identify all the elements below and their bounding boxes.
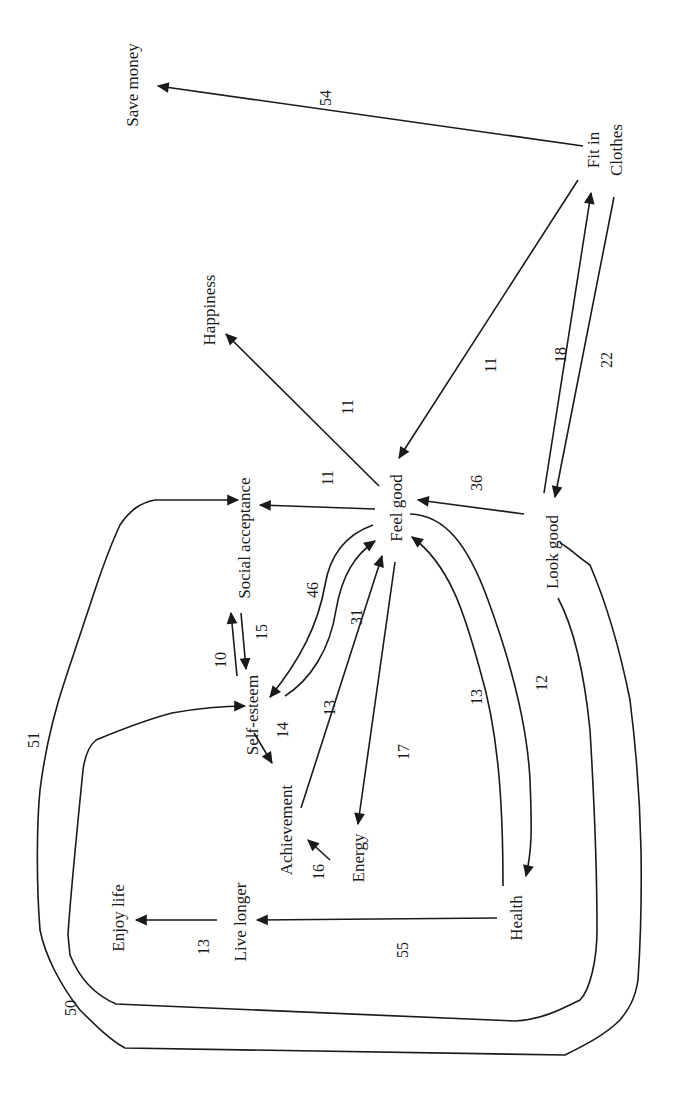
edge-feel-good-to-social-acceptance xyxy=(260,505,375,509)
edge-weight-labels: 54 11 18 22 11 11 36 46 31 10 15 14 13 1… xyxy=(25,90,615,1016)
node-enjoy-life: Enjoy life xyxy=(109,884,128,952)
node-achievement: Achievement xyxy=(277,784,296,875)
node-social-acceptance: Social acceptance xyxy=(235,477,254,598)
edge-look-good-to-fit-in-clothes xyxy=(544,193,591,493)
node-save-money: Save money xyxy=(123,43,142,127)
edge-health-to-live-longer xyxy=(257,918,497,920)
weight-label: 13 xyxy=(468,689,485,705)
edge-look-good-to-feel-good xyxy=(418,500,524,514)
weight-label: 50 xyxy=(62,1000,79,1016)
weight-label: 31 xyxy=(348,609,365,625)
weight-label: 22 xyxy=(598,352,615,368)
weight-label: 12 xyxy=(533,675,550,691)
edge-fit-in-clothes-to-save-money xyxy=(158,86,583,146)
weight-label: 55 xyxy=(394,942,411,958)
weight-label: 15 xyxy=(253,624,270,640)
weight-label: 54 xyxy=(317,90,334,106)
node-labels: Save money Fit in Clothes Happiness Soci… xyxy=(109,43,626,962)
edge-fit-in-clothes-to-feel-good xyxy=(399,180,578,458)
edge-energy-to-achievement xyxy=(308,840,330,860)
edge-look-good-to-self-esteem xyxy=(68,598,597,1021)
weight-label: 16 xyxy=(310,864,327,880)
implication-network: 54 11 18 22 11 11 36 46 31 10 15 14 13 1… xyxy=(0,0,696,1117)
weight-label: 11 xyxy=(339,399,356,414)
weight-label: 13 xyxy=(195,939,212,955)
weight-label: 17 xyxy=(395,744,412,760)
weight-label: 13 xyxy=(321,700,338,716)
edge-self-esteem-to-social-acceptance xyxy=(231,613,237,676)
edge-social-acceptance-to-self-esteem xyxy=(241,613,246,669)
node-fit-in-clothes-line1: Fit in xyxy=(584,131,603,168)
node-self-esteem: Self-esteem xyxy=(243,675,262,755)
node-happiness: Happiness xyxy=(200,275,219,346)
node-look-good: Look good xyxy=(543,514,562,589)
weight-label: 46 xyxy=(304,582,321,598)
weight-label: 36 xyxy=(468,475,485,491)
weight-label: 18 xyxy=(552,347,569,363)
diagram-canvas: 54 11 18 22 11 11 36 46 31 10 15 14 13 1… xyxy=(0,0,696,1117)
node-live-longer: Live longer xyxy=(231,882,250,961)
weight-label: 51 xyxy=(25,732,42,748)
weight-label: 11 xyxy=(319,470,336,485)
node-feel-good: Feel good xyxy=(387,474,406,542)
weight-label: 11 xyxy=(482,357,499,372)
node-health: Health xyxy=(507,895,526,941)
node-fit-in-clothes-line2: Clothes xyxy=(607,124,626,176)
weight-label: 10 xyxy=(212,652,229,668)
edge-health-to-feel-good xyxy=(412,537,503,886)
weight-label: 14 xyxy=(274,722,291,738)
node-energy: Energy xyxy=(349,833,368,882)
edge-fit-in-clothes-to-look-good xyxy=(555,197,614,497)
edge-feel-good-to-happiness xyxy=(226,334,379,486)
edge-feel-good-to-energy xyxy=(358,562,395,824)
